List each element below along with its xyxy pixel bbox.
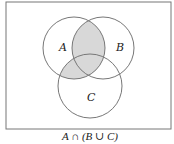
set-a-label: A: [58, 41, 67, 54]
venn-diagram: A B C A ∩ (B ∪ C): [0, 0, 174, 144]
diagram-caption: A ∩ (B ∪ C): [61, 130, 118, 143]
set-b-label: B: [115, 41, 124, 54]
set-c-label: C: [87, 91, 96, 104]
